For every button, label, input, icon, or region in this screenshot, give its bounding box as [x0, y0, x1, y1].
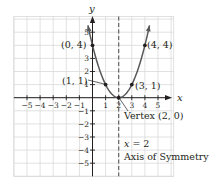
data-point [130, 83, 134, 87]
y-tick-label: −3 [78, 133, 89, 142]
data-point [91, 43, 95, 47]
axis-of-symmetry-label: Axis of Symmetry [123, 151, 209, 162]
y-tick-label: −1 [78, 107, 89, 116]
x-tick-label: 4 [143, 101, 148, 110]
parabola-graph: −5−4−3−2−1123455321−1−2−3−4−5 x y (0, 4)… [0, 0, 214, 189]
axis-of-symmetry-equation: x = 2 [124, 138, 149, 149]
x-tick-label: −5 [21, 101, 32, 110]
x-tick-label: −4 [35, 101, 46, 110]
y-axis-label: y [88, 3, 95, 14]
x-tick-label: 3 [129, 101, 134, 110]
axis-of-symmetry-value: = 2 [129, 138, 149, 149]
leader-line-1-1 [88, 80, 105, 84]
y-tick-label: 3 [84, 54, 89, 63]
x-tick-label: −2 [61, 101, 72, 110]
point-label-4-4: (4, 4) [147, 39, 173, 50]
point-label-0-4: (0, 4) [61, 39, 87, 50]
data-point [104, 83, 108, 87]
vertex-label: Vertex (2, 0) [123, 110, 184, 121]
point-label-1-1: (1, 1) [62, 75, 88, 86]
y-tick-label: −2 [78, 120, 89, 129]
x-tick-label: 1 [103, 101, 108, 110]
x-tick-label: 5 [156, 101, 161, 110]
x-axis-label: x [177, 92, 183, 103]
point-label-3-1: (3, 1) [135, 80, 161, 91]
x-tick-label: −3 [48, 101, 59, 110]
y-tick-label: −5 [78, 159, 89, 168]
y-tick-label: −4 [78, 146, 89, 155]
